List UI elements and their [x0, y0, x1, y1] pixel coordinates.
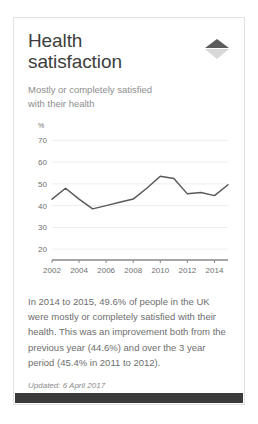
x-axis-tick-label: 2014: [206, 266, 224, 275]
card-content: Health satisfaction Mostly or completely…: [14, 18, 244, 390]
summary-text: In 2014 to 2015, 49.6% of people in the …: [28, 294, 230, 371]
y-axis-tick-label: 20: [38, 245, 47, 254]
x-axis-tick-label: 2006: [97, 266, 115, 275]
updated-timestamp: Updated: 6 April 2017: [28, 381, 230, 390]
x-axis-tick-label: 2012: [178, 266, 196, 275]
y-axis-tick-label: 40: [38, 201, 47, 210]
page-title: Health satisfaction: [28, 30, 230, 73]
y-axis-tick-label: 50: [38, 179, 47, 188]
card-bottom-bar: [15, 393, 243, 403]
x-axis-tick-label: 2002: [43, 266, 61, 275]
y-axis-tick-label: 70: [38, 136, 47, 145]
chart-container: % 70605040302020022004200620082010201220…: [28, 122, 230, 282]
x-axis-tick-label: 2010: [151, 266, 169, 275]
collapse-arrow-icon[interactable]: [202, 36, 232, 62]
x-axis-tick-label: 2004: [70, 266, 88, 275]
x-axis-tick-label: 2008: [124, 266, 142, 275]
health-satisfaction-line-chart: 7060504030202002200420062008201020122014: [28, 130, 232, 282]
health-satisfaction-card: Health satisfaction Mostly or completely…: [13, 17, 245, 405]
chart-data-line: [52, 176, 228, 209]
card-header: Health satisfaction: [28, 30, 230, 74]
chart-unit-label: %: [38, 122, 230, 129]
y-axis-tick-label: 60: [38, 158, 47, 167]
card-subtitle: Mostly or completely satisfied with thei…: [28, 83, 230, 111]
y-axis-tick-label: 30: [38, 223, 47, 232]
